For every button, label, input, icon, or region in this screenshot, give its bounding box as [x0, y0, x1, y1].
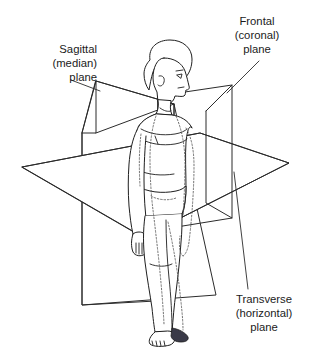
sagittal-label-line-1: Sagittal — [59, 43, 97, 55]
planes-diagram-canvas: Sagittal (median) plane Frontal (coronal… — [0, 0, 314, 354]
sagittal-label-line-3: plane — [69, 71, 97, 83]
frontal-label-line-3: plane — [243, 43, 271, 55]
transverse-label: Transverse (horizontal) plane — [236, 293, 293, 333]
sagittal-label-line-2: (median) — [52, 57, 97, 69]
transverse-leader-line — [234, 172, 248, 289]
anatomical-planes-figure: Sagittal (median) plane Frontal (coronal… — [0, 0, 314, 354]
frontal-label-line-2: (coronal) — [235, 29, 280, 41]
transverse-label-line-2: (horizontal) — [236, 307, 293, 319]
frontal-label: Frontal (coronal) plane — [235, 15, 280, 55]
neck — [156, 100, 172, 115]
transverse-label-line-1: Transverse — [236, 293, 292, 305]
frontal-plane-corner-fold — [206, 85, 232, 111]
transverse-label-line-3: plane — [250, 321, 278, 333]
foot-far — [171, 328, 188, 342]
sagittal-label: Sagittal (median) plane — [52, 43, 97, 83]
frontal-label-line-1: Frontal — [239, 15, 274, 27]
frontal-leader-line — [227, 61, 259, 93]
legs-near — [144, 214, 183, 332]
